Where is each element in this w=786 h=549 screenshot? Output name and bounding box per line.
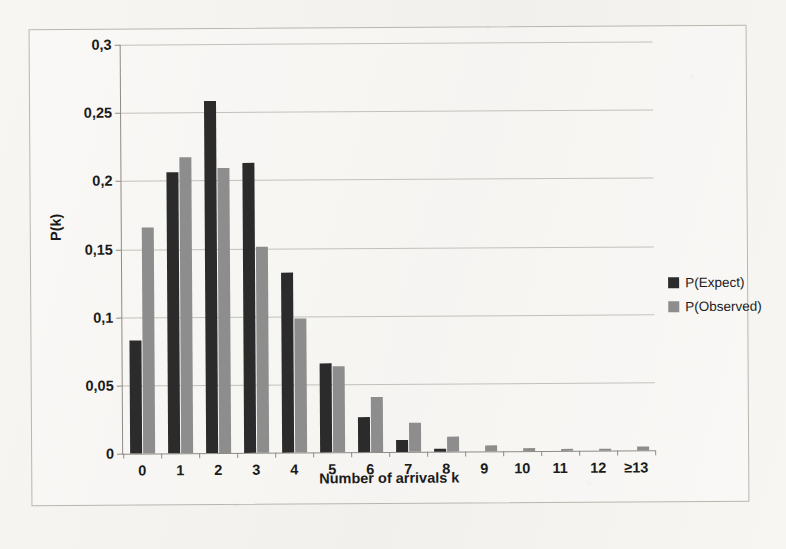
- x-axis-tick-mark: [465, 452, 466, 457]
- bar-p-observed-11: [561, 449, 573, 451]
- legend-item: P(Observed): [668, 299, 762, 315]
- x-axis-tick-mark: [617, 451, 618, 456]
- y-axis-tick-mark: [115, 113, 121, 114]
- x-axis-title: Number of arrivals k: [123, 468, 655, 487]
- x-axis-tick-mark: [199, 453, 200, 458]
- bar-p-observed-4: [294, 319, 307, 453]
- bar-p-expect-2: [204, 101, 218, 453]
- chart-legend: P(Expect)P(Observed): [668, 275, 762, 315]
- y-axis-tick-mark: [117, 385, 123, 386]
- gridline: [122, 314, 654, 318]
- chart-container: P(k) 00,050,10,150,20,250,3 012345678910…: [29, 25, 748, 504]
- bar-p-observed-5: [332, 366, 345, 452]
- bar-p-observed-9: [485, 445, 497, 451]
- y-axis-title: P(k): [48, 214, 64, 242]
- x-axis-tick-mark: [427, 452, 428, 457]
- gridline: [121, 41, 653, 45]
- bar-p-expect-7: [396, 440, 408, 452]
- y-axis-tick-label: 0,25: [84, 105, 112, 121]
- x-axis-tick-mark: [655, 450, 656, 455]
- gridline: [123, 382, 655, 386]
- bar-p-expect-4: [281, 273, 294, 453]
- x-axis-tick-mark: [503, 451, 504, 456]
- bar-p-observed-3: [255, 247, 268, 453]
- bar-p-expect-3: [242, 162, 256, 452]
- y-axis-tick-label: 0,3: [91, 37, 111, 53]
- x-axis-tick-mark: [275, 453, 276, 458]
- y-axis-tick-label: 0,15: [85, 241, 113, 257]
- gridline: [121, 178, 653, 182]
- legend-item-label: P(Expect): [685, 275, 744, 290]
- bar-p-expect-5: [319, 364, 332, 453]
- bar-p-observed-8: [447, 437, 459, 452]
- legend-item: P(Expect): [668, 275, 762, 291]
- plot-area: 00,050,10,150,20,250,3 0123456789101112≥…: [121, 41, 655, 453]
- x-axis-tick-mark: [389, 452, 390, 457]
- bar-p-observed-1: [179, 157, 193, 453]
- y-axis-tick-mark: [116, 317, 122, 318]
- bar-p-observed-≥13: [637, 446, 649, 450]
- bar-p-observed-0: [141, 227, 154, 453]
- y-axis-tick-mark: [116, 249, 122, 250]
- gridline: [121, 110, 653, 114]
- gridlines-group: [121, 41, 653, 44]
- y-axis-tick-label: 0,05: [85, 378, 113, 394]
- y-axis-tick-label: 0: [106, 446, 114, 462]
- y-axis-tick-label: 0,1: [93, 309, 113, 325]
- chart-page: P(k) 00,050,10,150,20,250,3 012345678910…: [0, 0, 786, 549]
- x-axis-tick-mark: [123, 454, 124, 459]
- bar-p-expect-6: [357, 417, 369, 453]
- legend-swatch-icon: [668, 301, 679, 312]
- y-axis-tick-mark: [115, 45, 121, 46]
- x-axis-tick-mark: [579, 451, 580, 456]
- bar-p-observed-6: [370, 398, 382, 453]
- bar-p-expect-8: [434, 449, 446, 452]
- y-axis-tick-mark: [115, 181, 121, 182]
- gridline: [122, 246, 654, 250]
- bar-p-observed-10: [523, 448, 535, 451]
- x-axis-tick-mark: [351, 452, 352, 457]
- x-axis-tick-mark: [237, 453, 238, 458]
- y-axis-tick-label: 0,2: [92, 173, 112, 189]
- bar-p-observed-2: [217, 168, 231, 453]
- x-axis-tick-mark: [313, 452, 314, 457]
- x-axis-tick-mark: [541, 451, 542, 456]
- x-axis-tick-mark: [161, 453, 162, 458]
- legend-swatch-icon: [668, 277, 679, 288]
- bar-p-expect-0: [129, 340, 142, 453]
- bar-p-observed-12: [599, 449, 611, 451]
- legend-item-label: P(Observed): [685, 299, 762, 314]
- bar-p-observed-7: [408, 423, 420, 452]
- bar-p-expect-1: [166, 172, 180, 453]
